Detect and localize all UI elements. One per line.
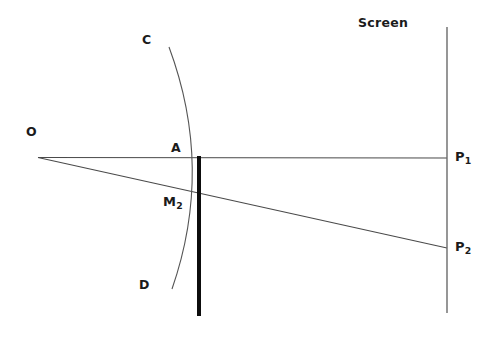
label-point-P2-base: P: [455, 239, 465, 254]
label-point-P1: P1: [455, 150, 471, 165]
label-arc-top-C: C: [142, 34, 151, 47]
label-arc-bottom-D: D: [139, 279, 150, 292]
label-point-P2-subscript: 2: [465, 245, 472, 256]
label-screen: Screen: [358, 17, 408, 30]
ray-upper-O-to-P1: [38, 158, 447, 159]
label-point-P1-base: P: [455, 149, 465, 164]
ray-lower-O-to-P2: [38, 158, 447, 249]
diagram-canvas: Screen O C D A M2 P1 P2: [0, 0, 500, 340]
label-point-P2: P2: [455, 240, 471, 255]
label-point-M2-subscript: 2: [176, 200, 183, 211]
label-point-M2-base: M: [163, 194, 176, 209]
label-vertex-A: A: [171, 142, 181, 155]
label-point-M2: M2: [163, 195, 183, 210]
label-point-P1-subscript: 1: [465, 155, 472, 166]
label-source-O: O: [26, 126, 37, 139]
arc-C-to-D: [169, 47, 192, 289]
ray-diagram-svg: [0, 0, 500, 340]
